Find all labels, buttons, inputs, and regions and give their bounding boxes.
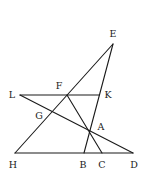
segments-layer <box>15 44 133 153</box>
point-label-D: D <box>130 159 138 170</box>
point-label-A: A <box>97 121 105 132</box>
segment-LD <box>20 95 133 153</box>
point-label-F: F <box>56 80 63 91</box>
point-label-H: H <box>9 159 17 170</box>
point-label-E: E <box>110 28 117 39</box>
geometry-diagram: EFKLGAHBCD <box>0 0 150 176</box>
point-label-K: K <box>104 89 112 100</box>
point-label-B: B <box>80 159 87 170</box>
point-label-C: C <box>98 159 105 170</box>
point-label-G: G <box>35 110 43 121</box>
point-label-L: L <box>9 89 16 100</box>
